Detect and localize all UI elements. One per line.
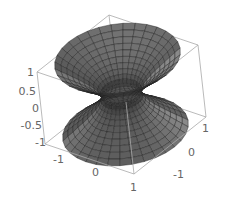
y-tick-0: 0 xyxy=(188,146,195,159)
z-tick-0: 0 xyxy=(32,102,39,115)
z-axis-ticks: 1 0.5 0 -0.5 -1 xyxy=(19,66,47,149)
z-tick-1: 1 xyxy=(27,66,34,79)
x-tick-neg1: -1 xyxy=(53,153,64,166)
hyperboloid-3d-plot: 1 0.5 0 -0.5 -1 -1 0 1 -1 0 1 xyxy=(0,0,231,203)
y-tick-neg1: -1 xyxy=(173,168,184,181)
x-tick-0: 0 xyxy=(92,166,99,179)
hyperboloid-surface xyxy=(55,23,188,166)
y-tick-1: 1 xyxy=(202,122,209,135)
z-tick-0.5: 0.5 xyxy=(19,85,37,98)
z-tick-neg1: -1 xyxy=(35,136,46,149)
x-tick-1: 1 xyxy=(130,181,137,194)
z-tick-neg0.5: -0.5 xyxy=(21,119,42,132)
